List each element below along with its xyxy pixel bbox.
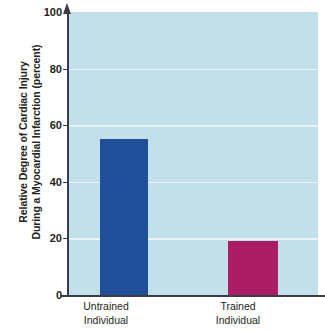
gridline-80 [68, 69, 318, 71]
bar-trained-individual [228, 241, 278, 295]
x-category-label-trained: Trained Individual [196, 300, 280, 327]
plot-area [68, 12, 318, 295]
y-axis-tick-labels: 100 80 60 40 20 0 [34, 0, 62, 330]
y-tick-label-60: 60 [34, 120, 62, 131]
y-tick-label-20: 20 [34, 233, 62, 244]
x-axis-line [60, 295, 325, 297]
y-axis-title-line-1: Relative Degree of Cardiac Injury [17, 61, 30, 222]
bar-untrained-individual [100, 139, 148, 295]
y-tick-label-80: 80 [34, 63, 62, 74]
bar-chart: Relative Degree of Cardiac Injury During… [0, 0, 325, 330]
x-category-label-untrained: Untrained Individual [64, 300, 148, 327]
gridline-60 [68, 125, 318, 127]
x-category-label-trained-line-2: Individual [196, 314, 280, 328]
y-axis-line [67, 12, 69, 296]
y-tick-label-100: 100 [34, 7, 62, 18]
y-tick-label-40: 40 [34, 176, 62, 187]
x-category-label-untrained-line-1: Untrained [64, 300, 148, 314]
x-category-label-trained-line-1: Trained [196, 300, 280, 314]
y-tick-label-0: 0 [34, 290, 62, 301]
x-category-label-untrained-line-2: Individual [64, 314, 148, 328]
